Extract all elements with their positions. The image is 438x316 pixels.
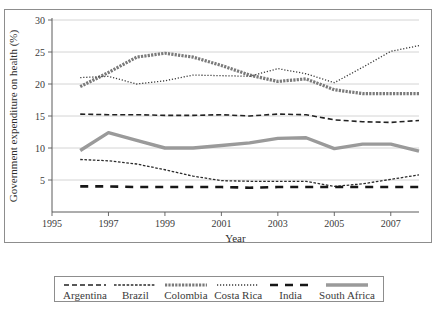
series-line-argentina [80,114,419,122]
legend-entry-south-africa[interactable]: South Africa [317,282,377,301]
legend-swatch-india [269,282,313,288]
legend: ArgentinaBrazilColombiaCosta RicaIndiaSo… [54,276,384,302]
legend-label-argentina: Argentina [63,289,107,301]
ytick-label-15: 15 [35,111,45,122]
legend-swatch-colombia [164,282,208,288]
legend-label-colombia: Colombia [164,289,207,301]
legend-swatch-brazil [113,282,157,288]
legend-swatch-south-africa [325,282,369,288]
series-line-india [80,186,419,187]
series-line-brazil [80,160,419,187]
ytick-label-25: 25 [35,47,45,58]
legend-swatch-argentina [63,282,107,288]
legend-entry-india[interactable]: India [267,282,315,301]
xtick-label-1999: 1999 [155,218,175,229]
legend-entry-argentina[interactable]: Argentina [61,282,109,301]
series-line-colombia [80,53,419,93]
legend-label-india: India [279,289,302,301]
legend-entry-costa-rica[interactable]: Costa Rica [212,282,264,301]
ytick-label-30: 30 [35,15,45,26]
xtick-label-2001: 2001 [211,218,231,229]
xtick-label-1995: 1995 [42,218,62,229]
series-line-south-africa [80,133,419,152]
figure-caption-partial [8,0,432,6]
ytick-label-20: 20 [35,79,45,90]
ytick-label-5: 5 [40,175,45,186]
legend-swatch-costa-rica [216,282,260,288]
figure-container: 510152025301995199719992001200320052007Y… [0,0,438,316]
xtick-label-2007: 2007 [381,218,401,229]
series-line-costa-rica [80,46,419,84]
legend-entry-colombia[interactable]: Colombia [162,282,210,301]
xtick-label-2003: 2003 [268,218,288,229]
xtick-label-1997: 1997 [98,218,118,229]
y-axis-title: Government expenditure on health (%) [7,30,20,203]
x-axis-title: Year [225,232,246,242]
legend-label-costa-rica: Costa Rica [214,289,262,301]
legend-entry-brazil[interactable]: Brazil [111,282,159,301]
ytick-label-10: 10 [35,143,45,154]
legend-label-south-africa: South Africa [319,289,375,301]
plot-frame: 510152025301995199719992001200320052007Y… [4,9,432,243]
legend-label-brazil: Brazil [122,289,149,301]
line-chart-svg: 510152025301995199719992001200320052007Y… [5,10,431,242]
xtick-label-2005: 2005 [324,218,344,229]
